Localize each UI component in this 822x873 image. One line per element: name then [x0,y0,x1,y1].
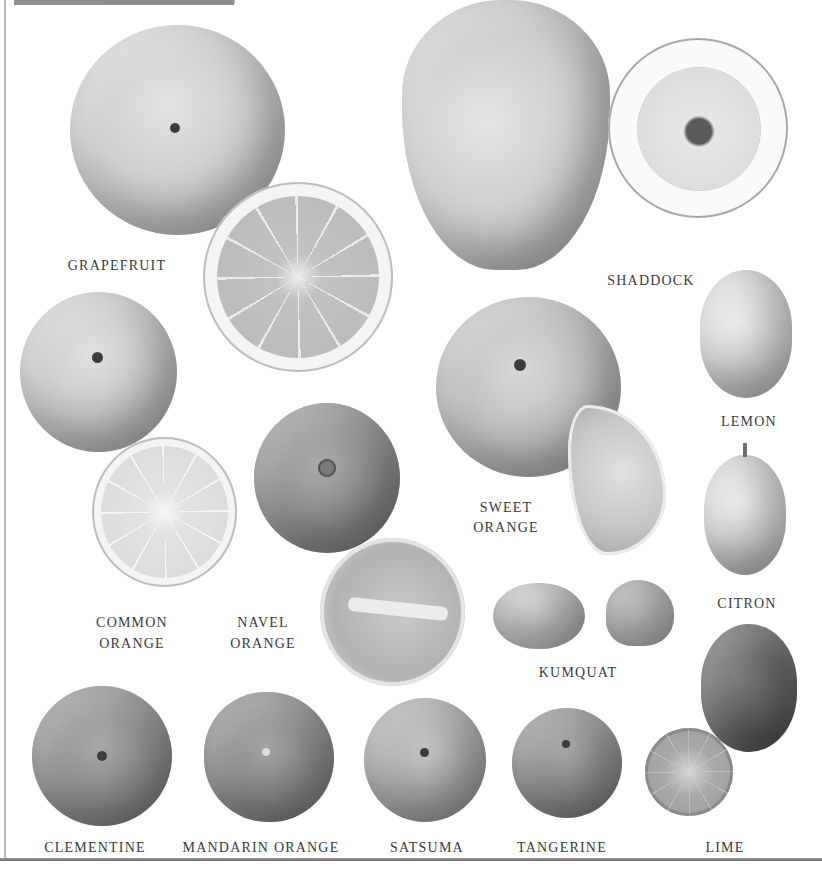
kumquat-half-image [606,580,674,646]
sweet-orange-stem-icon [514,359,526,371]
common-orange-half-image [92,437,237,587]
label-citron: CITRON [706,593,788,614]
label-common-orange-line1: COMMON [86,612,178,633]
lime-whole-image [701,624,797,752]
label-common-orange-line2: ORANGE [86,633,178,654]
tangerine-stem-icon [562,740,570,748]
bottom-border-rule [0,858,822,861]
kumquat-whole-image [493,583,585,649]
navel-orange-navel-icon [318,459,336,477]
label-sweet-orange-line2: ORANGE [464,517,548,538]
lime-half-image [645,728,733,816]
satsuma-image [364,698,486,822]
grapefruit-stem-icon [170,123,180,133]
citron-stem-icon [743,443,747,457]
grapefruit-half-image [203,182,393,372]
navel-orange-whole-image [254,403,400,553]
label-navel-orange-line2: ORANGE [222,633,304,654]
label-kumquat: KUMQUAT [530,662,626,683]
lemon-image [700,270,792,398]
navel-orange-cut-image [320,538,465,686]
citrus-plate: GRAPEFRUIT SHADDOCK LEMON SWEET ORANGE C… [0,0,822,873]
clementine-image [32,686,172,826]
label-clementine: CLEMENTINE [36,837,154,858]
sweet-orange-segment-image [568,405,666,555]
label-lemon: LEMON [710,411,788,432]
mandarin-orange-image [204,692,334,822]
satsuma-stem-icon [420,748,429,757]
shaddock-whole-image [402,0,610,270]
label-lime: LIME [700,837,750,858]
clementine-stem-icon [97,751,107,761]
left-border-rule [4,0,6,860]
mandarin-stem-icon [262,748,270,756]
label-grapefruit: GRAPEFRUIT [62,255,172,276]
label-sweet-orange-line1: SWEET [464,497,548,518]
label-satsuma: SATSUMA [384,837,470,858]
label-navel-orange-line1: NAVEL [222,612,304,633]
common-orange-whole-image [20,292,177,452]
citron-image [704,455,786,575]
tangerine-image [512,708,622,818]
label-tangerine: TANGERINE [512,837,612,858]
label-mandarin-orange: MANDARIN ORANGE [176,837,346,858]
common-orange-stem-icon [92,352,103,363]
cut-off-title-shadow [100,0,235,4]
label-shaddock: SHADDOCK [600,270,702,291]
shaddock-half-image [608,38,788,218]
